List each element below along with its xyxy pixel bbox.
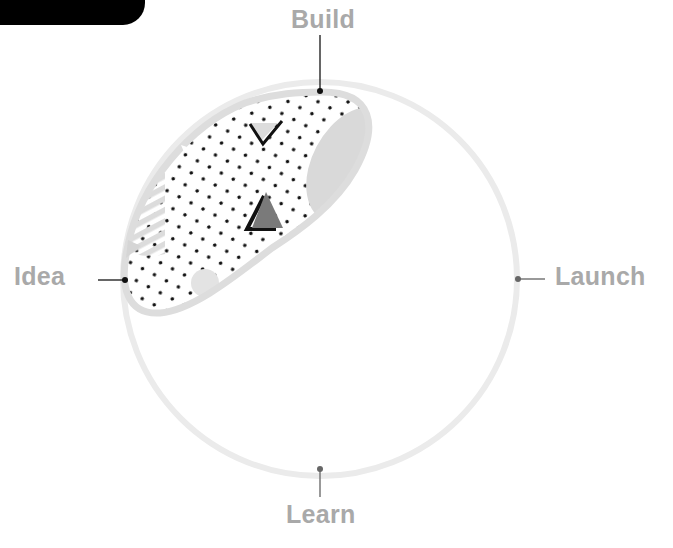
stage-label-learn: Learn: [286, 500, 356, 529]
stage-label-build: Build: [291, 5, 355, 34]
learn-node: [317, 466, 323, 472]
idea-node: [122, 277, 128, 283]
stage-label-idea: Idea: [14, 262, 65, 291]
stage-label-launch: Launch: [555, 262, 646, 291]
build-node: [317, 88, 323, 94]
launch-node: [515, 276, 521, 282]
